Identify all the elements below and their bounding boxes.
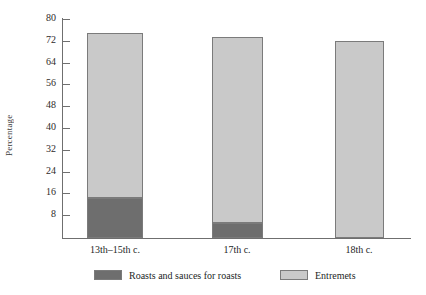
bar-segment-entremets[interactable] bbox=[212, 37, 263, 223]
x-axis-line bbox=[62, 238, 411, 239]
legend-label-entremets: Entremets bbox=[315, 270, 356, 281]
y-tick-label-64: 64 bbox=[22, 57, 56, 67]
legend-item-entremets[interactable]: Entremets bbox=[280, 268, 356, 282]
x-axis-label-0: 13th–15th c. bbox=[75, 244, 155, 255]
y-tick-label-16: 16 bbox=[22, 187, 56, 197]
legend: Roasts and sauces for roasts Entremets bbox=[0, 268, 426, 284]
bar-group-18th-c[interactable] bbox=[335, 41, 384, 239]
bar-group-17th-c[interactable] bbox=[212, 37, 263, 238]
bar-segment-roasts-and-sauces-for-roasts[interactable] bbox=[87, 198, 143, 239]
y-tick-label-8: 8 bbox=[22, 209, 56, 219]
legend-swatch-light-icon bbox=[280, 270, 308, 280]
y-tick-label-80: 80 bbox=[22, 13, 56, 23]
bar-segment-roasts-and-sauces-for-roasts[interactable] bbox=[212, 223, 263, 238]
y-tick-80: 80 bbox=[0, 19, 426, 20]
y-axis-title: Percentage bbox=[2, 80, 16, 190]
legend-swatch-dark-icon bbox=[94, 270, 122, 280]
bar-group-13th-15th-c[interactable] bbox=[87, 33, 143, 238]
y-tick-label-72: 72 bbox=[22, 35, 56, 45]
y-tick-label-40: 40 bbox=[22, 122, 56, 132]
y-tick-label-32: 32 bbox=[22, 144, 56, 154]
y-tick-label-56: 56 bbox=[22, 78, 56, 88]
bar-segment-entremets[interactable] bbox=[87, 33, 143, 198]
x-axis-label-2: 18th c. bbox=[324, 244, 394, 255]
x-axis-label-1: 17th c. bbox=[202, 244, 272, 255]
bar-chart: Percentage 80 72 64 56 48 40 32 24 16 8 bbox=[0, 0, 426, 295]
y-tick-label-24: 24 bbox=[22, 166, 56, 176]
y-tick-label-48: 48 bbox=[22, 100, 56, 110]
legend-label-roasts: Roasts and sauces for roasts bbox=[129, 270, 241, 281]
bar-segment-entremets[interactable] bbox=[335, 41, 384, 239]
legend-item-roasts-and-sauces-for-roasts[interactable]: Roasts and sauces for roasts bbox=[94, 268, 241, 282]
